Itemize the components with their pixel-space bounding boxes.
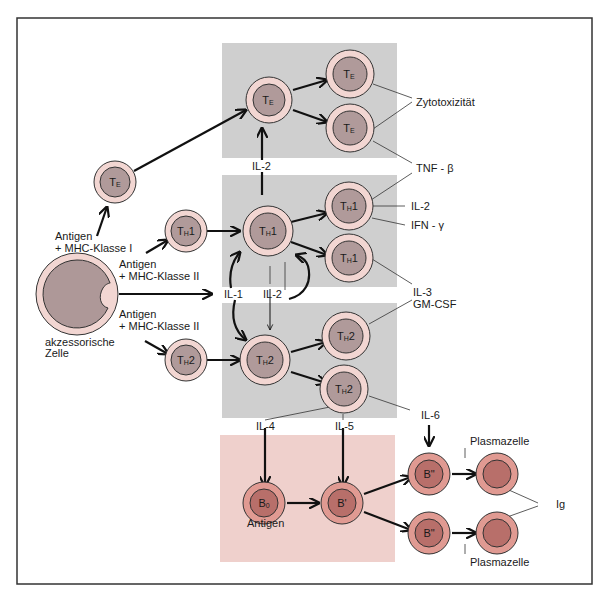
zytotoxizitaet-label: Zytotoxizität (416, 96, 475, 108)
accessory-cell (36, 253, 118, 335)
immune-response-diagram: TE TE TE TE TH1 TH1 TH1 TH1 TH2 (0, 0, 602, 596)
plasma-cell-bottom (476, 512, 518, 554)
te-left-cell: TE (94, 161, 136, 203)
il2-top-label: IL-2 (252, 160, 271, 172)
antigen-mhc2a-label: Antigen (119, 258, 156, 270)
plasmazelle-bottom-label: Plasmazelle (470, 556, 529, 568)
antigen-mhc1-label: Antigen (55, 230, 92, 242)
th1-top-right-cell: TH1 (325, 182, 373, 230)
il4-label: IL-4 (256, 420, 275, 432)
th1-left-cell: TH1 (165, 210, 207, 252)
il5-label: IL-5 (335, 420, 354, 432)
il2-mid-label: IL-2 (263, 288, 282, 300)
ifn-gamma-label: IFN - γ (411, 219, 444, 231)
accessory-cell-label-2: Zelle (45, 347, 69, 359)
antigen-mhc2b-label: Antigen (119, 308, 156, 320)
svg-text:B": B" (423, 527, 434, 539)
il6-label: IL-6 (421, 409, 440, 421)
antigen-mhc2b-label-2: + MHC-Klasse II (119, 320, 199, 332)
tnf-beta-label: TNF - β (416, 162, 454, 174)
antigen-mhc1-label-2: + MHC-Klasse I (55, 242, 132, 254)
te-center-cell: TE (246, 77, 292, 123)
b-double-prime-top-cell: B" (408, 453, 450, 495)
b-double-prime-bottom-cell: B" (408, 512, 450, 554)
te-top-right-cell: TE (326, 50, 374, 98)
b-prime-cell: B' (321, 482, 363, 524)
svg-text:B": B" (423, 468, 434, 480)
antigen-b0-label: Antigen (247, 517, 284, 529)
th2-top-right-cell: TH2 (322, 312, 370, 360)
antigen-mhc2a-label-2: + MHC-Klasse II (119, 270, 199, 282)
svg-text:B': B' (337, 497, 346, 509)
th1-bottom-right-cell: TH1 (325, 234, 373, 282)
ig-label: Ig (556, 498, 565, 510)
gm-csf-label: GM-CSF (413, 298, 457, 310)
th2-left-cell: TH2 (165, 339, 207, 381)
te-bottom-right-cell: TE (326, 104, 374, 152)
plasma-cell-top (476, 453, 518, 495)
plasmazelle-top-label: Plasmazelle (470, 435, 529, 447)
il1-label: IL-1 (224, 288, 243, 300)
il3-label: IL-3 (413, 286, 432, 298)
th2-center-cell: TH2 (240, 335, 290, 385)
il2-right-label: IL-2 (411, 200, 430, 212)
th1-center-cell: TH1 (243, 206, 293, 256)
th2-bottom-right-cell: TH2 (320, 365, 368, 413)
